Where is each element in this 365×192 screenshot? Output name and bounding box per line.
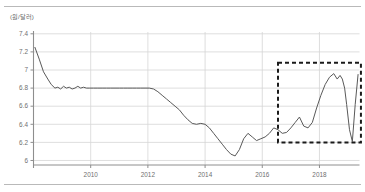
y-tick-label: 7: [24, 66, 28, 73]
y-tick-label: 6.6: [19, 102, 28, 109]
y-tick-label: 7.2: [19, 48, 28, 55]
x-tick-label: 2018: [312, 171, 327, 178]
x-tick-label: 2016: [255, 171, 270, 178]
y-tick-label: 6.4: [19, 121, 28, 128]
y-tick-label: 7.4: [19, 30, 28, 37]
plot-area: 66.26.46.66.877.27.420102012201420162018: [0, 0, 365, 192]
chart-figure: (원/달러) 66.26.46.66.877.27.42010201220142…: [0, 0, 365, 192]
x-tick-label: 2012: [141, 171, 156, 178]
y-tick-label: 6.2: [19, 139, 28, 146]
y-tick-label: 6.8: [19, 84, 28, 91]
y-tick-label: 6: [24, 157, 28, 164]
line-chart-svg: 66.26.46.66.877.27.420102012201420162018: [0, 0, 365, 192]
x-tick-label: 2010: [84, 171, 99, 178]
x-tick-label: 2014: [198, 171, 213, 178]
